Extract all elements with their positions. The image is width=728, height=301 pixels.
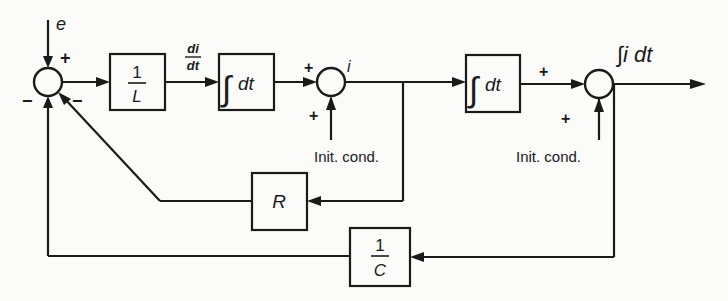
arrow-icon bbox=[43, 96, 53, 108]
dt-label: dt bbox=[187, 58, 200, 73]
R-label: R bbox=[272, 191, 286, 212]
arrow-icon bbox=[326, 96, 336, 110]
sign-plus-forward-1: + bbox=[304, 59, 313, 76]
sign-plus-init-2: + bbox=[561, 110, 570, 127]
arrow-icon bbox=[571, 79, 585, 89]
summing-junction-main bbox=[34, 68, 62, 96]
sign-plus-init-1: + bbox=[309, 107, 318, 124]
arrow-icon bbox=[452, 77, 466, 87]
rlc-block-diagram: e + − − 1 L di dt ∫ dt + i + Init. cond.… bbox=[0, 0, 728, 301]
inv-L-den: L bbox=[132, 87, 141, 106]
integral-icon: ∫ bbox=[467, 70, 480, 109]
summing-junction-init2 bbox=[585, 70, 613, 98]
arrow-icon bbox=[594, 98, 604, 112]
inv-C-den: C bbox=[374, 261, 387, 280]
wire bbox=[64, 98, 160, 201]
arrow-icon bbox=[205, 77, 219, 87]
integral-icon: ∫ bbox=[220, 69, 233, 108]
integrator-2-label: dt bbox=[485, 74, 502, 95]
init-cond-1-label: Init. cond. bbox=[314, 148, 379, 165]
sign-plus-e: + bbox=[60, 48, 71, 68]
inv-L-num: 1 bbox=[132, 63, 141, 82]
summing-junction-init1 bbox=[317, 68, 345, 96]
integrator-1-label: dt bbox=[238, 73, 255, 94]
init-cond-2-label: Init. cond. bbox=[516, 148, 581, 165]
input-e-label: e bbox=[56, 14, 66, 34]
current-i-label: i bbox=[347, 58, 351, 75]
arrow-icon bbox=[690, 79, 706, 89]
sign-plus-forward-2: + bbox=[539, 63, 548, 80]
arrow-icon bbox=[410, 252, 424, 262]
arrow-icon bbox=[307, 196, 321, 206]
arrow-icon bbox=[96, 77, 110, 87]
di-label: di bbox=[187, 41, 199, 56]
output-label: ∫i dt bbox=[615, 42, 653, 67]
arrow-icon bbox=[303, 77, 317, 87]
sign-minus-c: − bbox=[22, 91, 33, 111]
arrow-icon bbox=[43, 56, 53, 68]
inv-C-num: 1 bbox=[375, 236, 384, 255]
